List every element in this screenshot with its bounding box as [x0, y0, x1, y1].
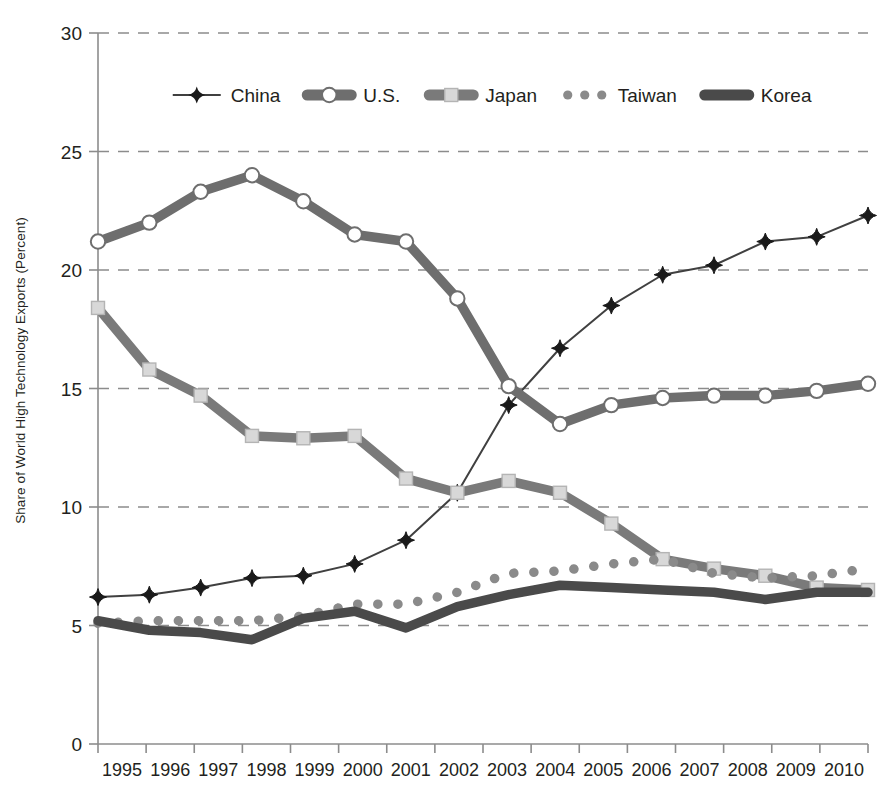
data-point [654, 266, 671, 283]
data-point [347, 227, 361, 241]
data-point [193, 185, 207, 199]
data-point [295, 567, 312, 584]
chart-container: Share of World High Technology Exports (… [0, 0, 879, 804]
series-line-korea [98, 585, 868, 640]
x-tick-label-2008: 2008 [728, 760, 768, 780]
data-point [706, 257, 723, 274]
x-tick-label-1997: 1997 [198, 760, 238, 780]
x-tick-label-1995: 1995 [102, 760, 142, 780]
data-point [501, 379, 515, 393]
y-tick-label-20: 20 [61, 260, 82, 281]
y-axis-ticks [89, 33, 98, 744]
data-point [757, 233, 774, 250]
data-point [502, 474, 515, 487]
x-tick-label-2010: 2010 [824, 760, 864, 780]
legend-label: Taiwan [618, 85, 677, 106]
x-tick-label-1999: 1999 [295, 760, 335, 780]
legend-item-korea[interactable]: Korea [705, 85, 812, 106]
legend-marker-dot [580, 90, 589, 99]
data-point [194, 389, 207, 402]
legend-item-us[interactable]: U.S. [307, 85, 400, 106]
data-point [91, 234, 105, 248]
data-point [808, 228, 825, 245]
x-axis-ticks [98, 744, 868, 753]
series-line-us [98, 175, 868, 424]
x-tick-label-2007: 2007 [680, 760, 720, 780]
data-point [399, 234, 413, 248]
y-axis-tick-labels: 051015202530 [61, 23, 82, 755]
series-line-taiwan [98, 559, 868, 623]
y-tick-label-30: 30 [61, 23, 82, 44]
data-point [655, 391, 669, 405]
x-tick-label-2003: 2003 [487, 760, 527, 780]
data-point [553, 417, 567, 431]
x-tick-label-1998: 1998 [246, 760, 286, 780]
data-point [451, 486, 464, 499]
data-point [246, 429, 259, 442]
y-tick-label-5: 5 [71, 616, 82, 637]
y-tick-label-10: 10 [61, 497, 82, 518]
y-tick-label-15: 15 [61, 379, 82, 400]
data-point [143, 363, 156, 376]
data-point [92, 301, 105, 314]
x-tick-label-2009: 2009 [776, 760, 816, 780]
legend-marker-diamond [188, 87, 205, 104]
data-point [90, 589, 107, 606]
legend-label: U.S. [363, 85, 400, 106]
x-tick-label-2006: 2006 [631, 760, 671, 780]
data-point [297, 432, 310, 445]
data-point [809, 384, 823, 398]
chart-legend: ChinaU.S.JapanTaiwanKorea [173, 85, 812, 106]
data-point [758, 388, 772, 402]
data-point [861, 377, 875, 391]
series-korea [98, 585, 868, 640]
data-point [604, 398, 618, 412]
y-tick-label-0: 0 [71, 734, 82, 755]
x-tick-label-1996: 1996 [150, 760, 190, 780]
x-tick-label-2005: 2005 [583, 760, 623, 780]
data-point [141, 586, 158, 603]
y-tick-label-25: 25 [61, 142, 82, 163]
legend-item-japan[interactable]: Japan [429, 85, 537, 106]
legend-marker-dot [597, 90, 606, 99]
data-point [554, 486, 567, 499]
data-point [450, 291, 464, 305]
line-chart: 051015202530 199519961997199819992000200… [0, 0, 879, 804]
data-point [244, 570, 261, 587]
legend-label: Japan [485, 85, 537, 106]
data-point [707, 388, 721, 402]
data-point [296, 194, 310, 208]
gridlines [98, 33, 868, 626]
data-point [400, 472, 413, 485]
x-tick-label-2002: 2002 [439, 760, 479, 780]
legend-marker-dot [563, 90, 572, 99]
x-tick-label-2000: 2000 [343, 760, 383, 780]
x-tick-label-2001: 2001 [391, 760, 431, 780]
legend-label: China [231, 85, 281, 106]
legend-marker-circle [322, 88, 336, 102]
data-series-layer [90, 168, 877, 640]
series-us [91, 168, 875, 431]
legend-marker-square [445, 89, 458, 102]
data-point [192, 579, 209, 596]
legend-item-china[interactable]: China [173, 85, 281, 106]
legend-item-taiwan[interactable]: Taiwan [563, 85, 677, 106]
x-axis-tick-labels: 1995199619971998199920002001200220032004… [102, 760, 864, 780]
legend-label: Korea [761, 85, 812, 106]
x-tick-label-2004: 2004 [535, 760, 575, 780]
data-point [245, 168, 259, 182]
data-point [142, 215, 156, 229]
data-point [605, 517, 618, 530]
series-taiwan [98, 559, 868, 623]
data-point [348, 429, 361, 442]
data-point [860, 207, 877, 224]
data-point [346, 555, 363, 572]
